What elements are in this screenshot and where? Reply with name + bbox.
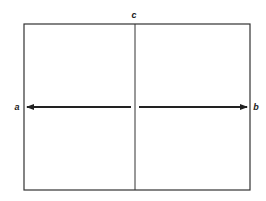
label-a: a — [14, 102, 19, 112]
diagram-canvas: a b c — [0, 0, 266, 201]
label-c: c — [131, 10, 136, 20]
label-b: b — [253, 102, 259, 112]
